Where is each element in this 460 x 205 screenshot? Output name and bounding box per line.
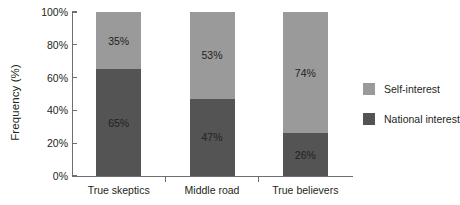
y-axis-title: Frequency (%) xyxy=(6,0,24,205)
x-axis-tick-label: True believers xyxy=(272,184,338,196)
bar-segment[interactable]: 65% xyxy=(96,69,141,176)
bar-group[interactable]: 74%26% xyxy=(283,12,328,176)
bar-group[interactable]: 35%65% xyxy=(96,12,141,176)
legend-swatch xyxy=(363,113,375,125)
y-axis-tick-label: 80% xyxy=(34,39,68,51)
bar-value-label: 74% xyxy=(295,67,316,79)
legend-item[interactable]: Self-interest xyxy=(363,74,460,104)
x-axis-line xyxy=(72,176,353,177)
bar-value-label: 35% xyxy=(108,35,129,47)
bar-group[interactable]: 53%47% xyxy=(190,12,235,176)
bar-value-label: 26% xyxy=(295,149,316,161)
bar-segment[interactable]: 26% xyxy=(283,133,328,176)
chart-legend: Self-interestNational interest xyxy=(363,74,460,134)
legend-swatch xyxy=(363,83,375,95)
legend-label: National interest xyxy=(384,113,460,125)
x-axis-tick xyxy=(165,177,166,182)
bar-value-label: 65% xyxy=(108,117,129,129)
x-axis-tick xyxy=(258,177,259,182)
plot-area: 35%65%53%47%74%26% xyxy=(72,12,352,176)
bar-segment[interactable]: 35% xyxy=(96,12,141,69)
y-axis-tick-label: 40% xyxy=(34,104,68,116)
legend-label: Self-interest xyxy=(384,83,440,95)
x-axis-tick-label: True skeptics xyxy=(88,184,150,196)
bar-value-label: 47% xyxy=(201,131,222,143)
bar-segment[interactable]: 47% xyxy=(190,99,235,176)
stacked-bar-chart: Frequency (%) 0%20%40%60%80%100% 35%65%5… xyxy=(0,0,460,205)
x-axis-tick-label: Middle road xyxy=(185,184,240,196)
y-axis-tick-label: 0% xyxy=(34,170,68,182)
bar-segment[interactable]: 53% xyxy=(190,12,235,99)
bar-segment[interactable]: 74% xyxy=(283,12,328,133)
bar-value-label: 53% xyxy=(201,49,222,61)
y-axis-tick-label: 100% xyxy=(34,6,68,18)
y-axis-tick-label: 60% xyxy=(34,72,68,84)
legend-item[interactable]: National interest xyxy=(363,104,460,134)
y-axis-tick-label: 20% xyxy=(34,137,68,149)
